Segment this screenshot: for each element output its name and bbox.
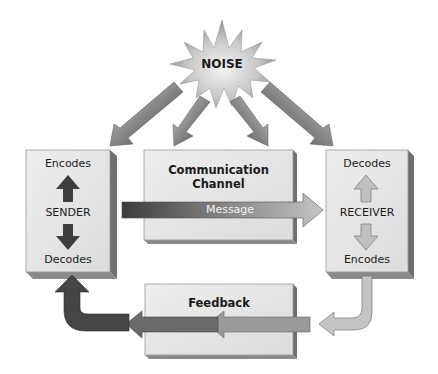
sender-encodes-label: Encodes: [26, 157, 110, 170]
message-label: Message: [170, 203, 290, 216]
feedback-arrow-to-sender: [55, 275, 129, 331]
receiver-label: RECEIVER: [326, 206, 408, 219]
noise-label: NOISE: [196, 57, 248, 71]
sender-decodes-label: Decodes: [26, 253, 110, 266]
noise-arrow-to-sender: [110, 82, 183, 146]
noise-arrow-to-channel-left: [173, 96, 210, 146]
channel-title-line1: Communication: [144, 163, 293, 177]
noise-arrow-to-receiver: [261, 82, 333, 146]
sender-label: SENDER: [26, 206, 110, 219]
feedback-arrow-from-receiver: [319, 276, 372, 336]
receiver-encodes-label: Encodes: [326, 253, 408, 266]
feedback-title: Feedback: [145, 296, 293, 310]
noise-arrow-to-channel-right: [230, 96, 268, 146]
receiver-decodes-label: Decodes: [326, 157, 408, 170]
channel-title-line2: Channel: [144, 177, 293, 191]
